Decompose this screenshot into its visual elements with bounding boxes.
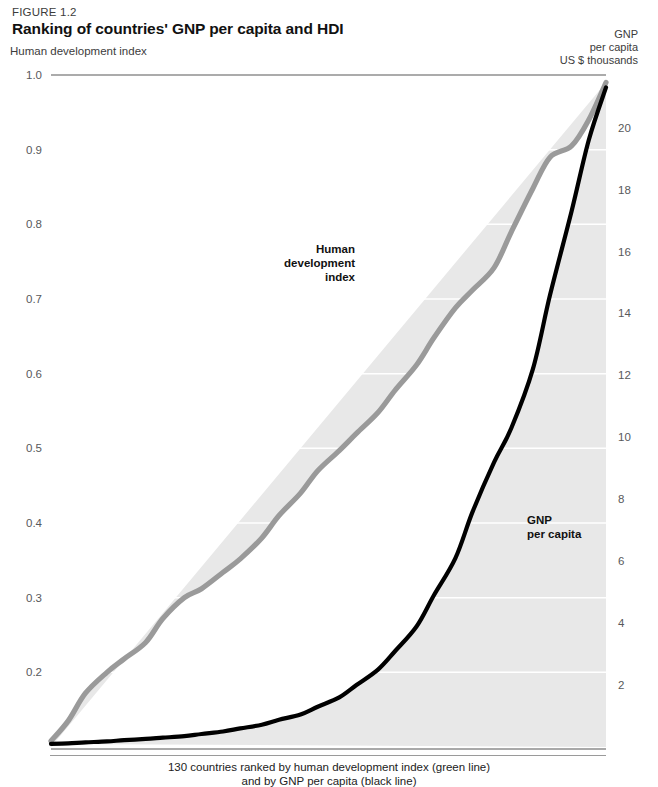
figure-caption: 130 countries ranked by human developmen… <box>0 760 658 787</box>
left-tick-label: 0.9 <box>26 144 42 156</box>
hdi-annotation-line: index <box>325 271 356 283</box>
caption-line-2: and by GNP per capita (black line) <box>0 774 658 787</box>
left-tick-label: 0.5 <box>26 442 42 454</box>
right-tick-label: 8 <box>618 493 624 505</box>
right-tick-label: 18 <box>618 184 631 196</box>
left-tick-label: 0.3 <box>26 592 42 604</box>
gnp-annotation-line: GNP <box>527 514 552 526</box>
right-tick-label: 14 <box>618 307 631 319</box>
ranking-line-chart: 1.00.90.80.70.60.50.40.30.22018161412108… <box>0 0 658 787</box>
gnp-annotation-line: per capita <box>527 528 582 540</box>
right-tick-label: 16 <box>618 246 631 258</box>
right-tick-label: 12 <box>618 369 631 381</box>
right-tick-label: 4 <box>618 617 625 629</box>
left-tick-label: 0.4 <box>26 517 43 529</box>
hdi-annotation-line: Human <box>316 243 355 255</box>
hdi-annotation-line: development <box>284 257 355 269</box>
left-tick-label: 0.8 <box>26 218 42 230</box>
right-tick-label: 6 <box>618 555 624 567</box>
right-tick-label: 10 <box>618 431 631 443</box>
left-tick-label: 0.7 <box>26 293 42 305</box>
chart-container: 1.00.90.80.70.60.50.40.30.22018161412108… <box>0 0 658 787</box>
right-tick-label: 20 <box>618 122 631 134</box>
left-tick-label: 0.6 <box>26 368 42 380</box>
left-axis-ticks: 1.00.90.80.70.60.50.40.30.2 <box>26 69 43 678</box>
left-tick-label: 1.0 <box>26 69 42 81</box>
axis-bottom-rule <box>50 755 606 756</box>
right-axis-ticks: 2018161412108642 <box>618 122 631 691</box>
caption-line-1: 130 countries ranked by human developmen… <box>0 760 658 774</box>
left-tick-label: 0.2 <box>26 666 42 678</box>
right-tick-label: 2 <box>618 679 624 691</box>
